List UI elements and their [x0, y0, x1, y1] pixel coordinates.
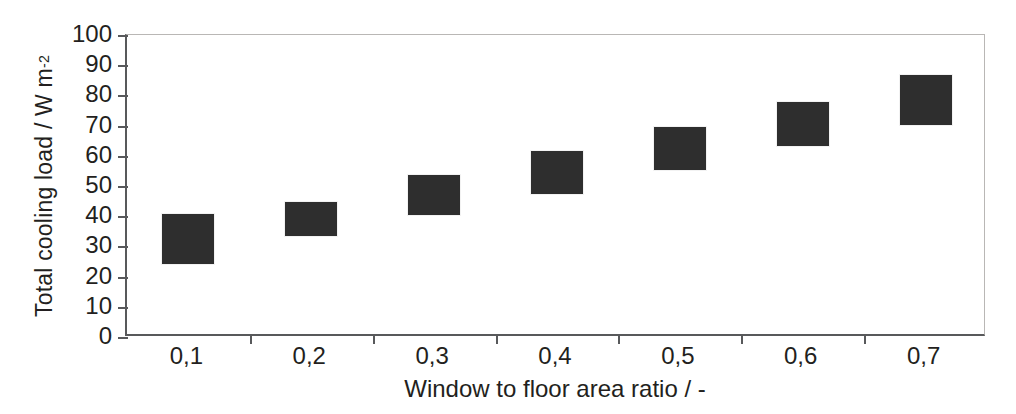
x-axis-tick-label: 0,1: [146, 344, 226, 368]
y-axis-tick: [118, 307, 128, 309]
x-axis-tick: [741, 334, 743, 344]
x-axis-tick-label: 0,2: [269, 344, 349, 368]
data-marker: [530, 150, 584, 195]
y-axis-tick: [118, 186, 128, 188]
y-axis-tick-label: 70: [54, 113, 112, 137]
y-axis-tick-label: 40: [54, 203, 112, 227]
x-axis-tick-label: 0,5: [638, 344, 718, 368]
plot-area: [125, 34, 985, 336]
data-marker: [776, 101, 830, 146]
x-axis-tick: [618, 334, 620, 344]
y-axis-tick-label: 30: [54, 233, 112, 257]
y-axis-tick: [118, 246, 128, 248]
y-axis-tick-label: 100: [54, 22, 112, 46]
y-axis-tick-label: 50: [54, 173, 112, 197]
data-marker: [161, 213, 215, 264]
y-axis-tick: [118, 216, 128, 218]
x-axis-tick-label: 0,7: [884, 344, 964, 368]
y-axis-tick: [118, 126, 128, 128]
x-axis-tick: [864, 334, 866, 344]
x-axis-tick-label: 0,4: [515, 344, 595, 368]
y-axis-tick-label: 0: [54, 324, 112, 348]
y-axis-tick-labels: 0102030405060708090100: [54, 0, 112, 414]
y-axis-tick: [118, 277, 128, 279]
y-axis-tick-label: 20: [54, 264, 112, 288]
chart-figure: Total cooling load / W m-2 0102030405060…: [0, 0, 1016, 414]
y-axis-tick: [118, 95, 128, 97]
y-axis-tick: [118, 156, 128, 158]
data-marker: [284, 201, 338, 237]
x-axis-tick: [373, 334, 375, 344]
data-marker: [899, 74, 953, 125]
x-axis-label: Window to floor area ratio / -: [125, 375, 985, 403]
y-axis-tick-label: 80: [54, 82, 112, 106]
data-marker: [407, 174, 461, 216]
y-axis-tick-label: 90: [54, 52, 112, 76]
y-axis-tick-label: 10: [54, 294, 112, 318]
x-axis-tick: [250, 334, 252, 344]
x-axis-tick-label: 0,6: [761, 344, 841, 368]
x-axis-tick-label: 0,3: [392, 344, 472, 368]
x-axis-tick: [496, 334, 498, 344]
x-axis-tick-labels: 0,10,20,30,40,50,60,7: [125, 344, 985, 374]
y-axis-tick: [118, 65, 128, 67]
y-axis-tick-label: 60: [54, 143, 112, 167]
y-axis-tick: [118, 337, 128, 339]
y-axis-tick: [118, 35, 128, 37]
data-marker: [653, 126, 707, 171]
